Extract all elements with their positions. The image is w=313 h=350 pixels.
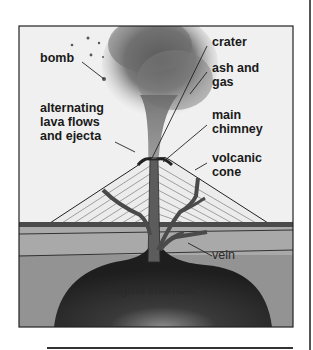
label-bomb: bomb	[40, 51, 74, 65]
label-magma-chamber: magma chamber	[103, 283, 197, 297]
page-margin-rule	[309, 0, 311, 350]
label-volcanic-cone: volcanic cone	[212, 151, 262, 179]
label-main-chimney: main chimney	[212, 108, 263, 136]
label-vein: vein	[212, 248, 235, 262]
label-ash-and-gas: ash and gas	[212, 61, 259, 89]
label-alternating-lava-flows: alternating lava flows and ejecta	[40, 101, 104, 143]
caption-rule	[47, 347, 293, 349]
label-crater: crater	[212, 35, 247, 49]
